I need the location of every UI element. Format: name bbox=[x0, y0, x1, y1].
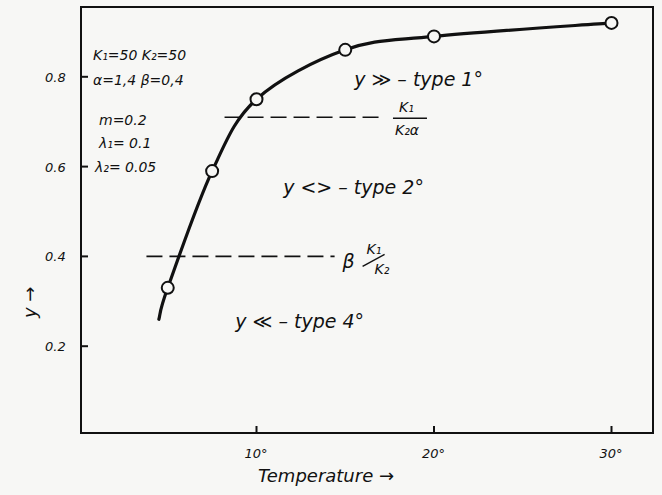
parameter-label: α=1,4 β=0,4 bbox=[93, 72, 184, 88]
parameter-label: λ₂= 0.05 bbox=[94, 159, 156, 175]
region-label: y ≫ – type 1° bbox=[353, 68, 483, 90]
fraction-denominator: K₂α bbox=[395, 122, 420, 138]
data-point-marker bbox=[606, 17, 618, 29]
beta-symbol: β bbox=[342, 250, 355, 272]
fraction-denominator: K₂ bbox=[375, 261, 390, 277]
region-label: y ≪ – type 4° bbox=[234, 310, 364, 332]
y-tick-label: 0.8 bbox=[45, 70, 66, 85]
axis-ticks: 0.20.40.60.810°20°30° bbox=[45, 70, 623, 461]
data-point-marker bbox=[339, 44, 351, 56]
data-markers bbox=[162, 17, 618, 294]
fraction-numerator: K₁ bbox=[399, 99, 414, 115]
chart: 0.20.40.60.810°20°30° K₁K₂αβK₁K₂ K₁=50 K… bbox=[0, 0, 662, 495]
parameter-annotations: K₁=50 K₂=50α=1,4 β=0,4m=0.2λ₁= 0.1λ₂= 0.… bbox=[93, 47, 186, 175]
parameter-label: m=0.2 bbox=[99, 112, 147, 128]
x-tick-label: 30° bbox=[600, 446, 623, 461]
data-point-marker bbox=[162, 282, 174, 294]
y-tick-label: 0.6 bbox=[45, 160, 66, 175]
parameter-label: λ₁= 0.1 bbox=[98, 135, 151, 151]
x-axis-title: Temperature → bbox=[258, 465, 394, 486]
y-tick-label: 0.2 bbox=[45, 339, 66, 354]
region-annotations: y ≫ – type 1°y <> – type 2°y ≪ – type 4° bbox=[234, 68, 483, 332]
parameter-label: K₁=50 K₂=50 bbox=[93, 47, 186, 63]
y-tick-label: 0.4 bbox=[45, 249, 66, 264]
x-tick-label: 10° bbox=[245, 446, 268, 461]
y-axis-title: y → bbox=[19, 287, 40, 319]
data-point-marker bbox=[206, 165, 218, 177]
region-label: y <> – type 2° bbox=[282, 176, 424, 198]
fraction-numerator: K₁ bbox=[367, 241, 382, 257]
data-point-marker bbox=[428, 30, 440, 42]
x-tick-label: 20° bbox=[422, 446, 445, 461]
data-point-marker bbox=[251, 93, 263, 105]
